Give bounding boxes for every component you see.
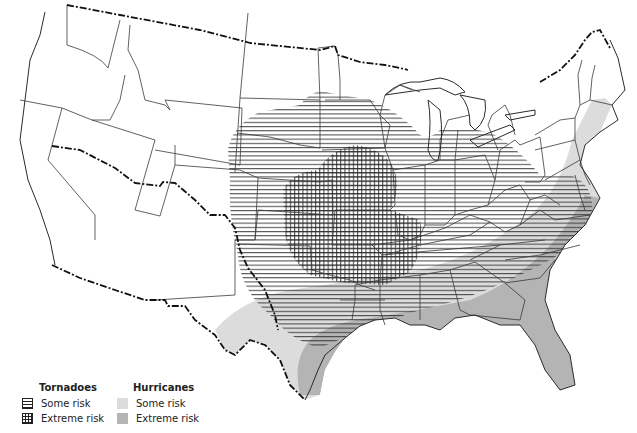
legend-label: Some risk (136, 398, 185, 409)
legend-item-tornado-some: Some risk (22, 396, 104, 411)
legend-item-hurricane-extreme: Extreme risk (117, 411, 199, 426)
lake-ontario (505, 110, 535, 120)
canada-border (67, 5, 408, 70)
cross-hatch-swatch-icon (22, 413, 33, 424)
dark-gray-swatch-icon (117, 413, 128, 424)
legend-item-hurricane-some: Some risk (117, 396, 199, 411)
legend-label: Extreme risk (41, 413, 104, 424)
west-coast (20, 12, 55, 265)
horizontal-hatch-swatch-icon (22, 398, 33, 409)
legend-label: Some risk (41, 398, 90, 409)
legend-label: Extreme risk (136, 413, 199, 424)
light-gray-swatch-icon (117, 398, 128, 409)
hurricane-legend: Hurricanes Some risk Extreme risk (117, 382, 199, 426)
tornado-legend: Tornadoes Some risk Extreme risk (22, 382, 104, 426)
us-risk-map (0, 0, 637, 433)
lake-huron (460, 95, 486, 130)
canada-border-east (540, 30, 610, 82)
lake-superior (385, 78, 465, 95)
legend-item-tornado-extreme: Extreme risk (22, 411, 104, 426)
hurricane-legend-title: Hurricanes (133, 382, 199, 393)
tornado-legend-title: Tornadoes (39, 382, 104, 393)
